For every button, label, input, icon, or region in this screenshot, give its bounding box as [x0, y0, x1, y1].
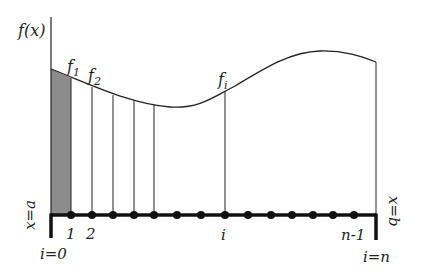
tick-label-i: i	[221, 226, 226, 244]
f2-label: f2	[87, 66, 101, 88]
left-bound-label: x=a	[21, 200, 39, 230]
right-index-label: i=n	[363, 248, 390, 266]
y-axis-label: f(x)	[17, 21, 45, 40]
numerical-integration-diagram: f(x) f1 f2 fi 1 2 i n-1 i=0 i=n x=a x=b	[0, 0, 423, 276]
f1-label: f1	[66, 57, 80, 79]
fi-label: fi	[217, 70, 227, 92]
tick-label-2: 2	[85, 225, 96, 243]
tick-label-n-minus-1: n-1	[341, 226, 365, 244]
shaded-strip	[51, 69, 71, 215]
right-bound-label: x=b	[385, 196, 403, 227]
left-index-label: i=0	[40, 245, 67, 263]
tick-label-1: 1	[66, 225, 76, 243]
